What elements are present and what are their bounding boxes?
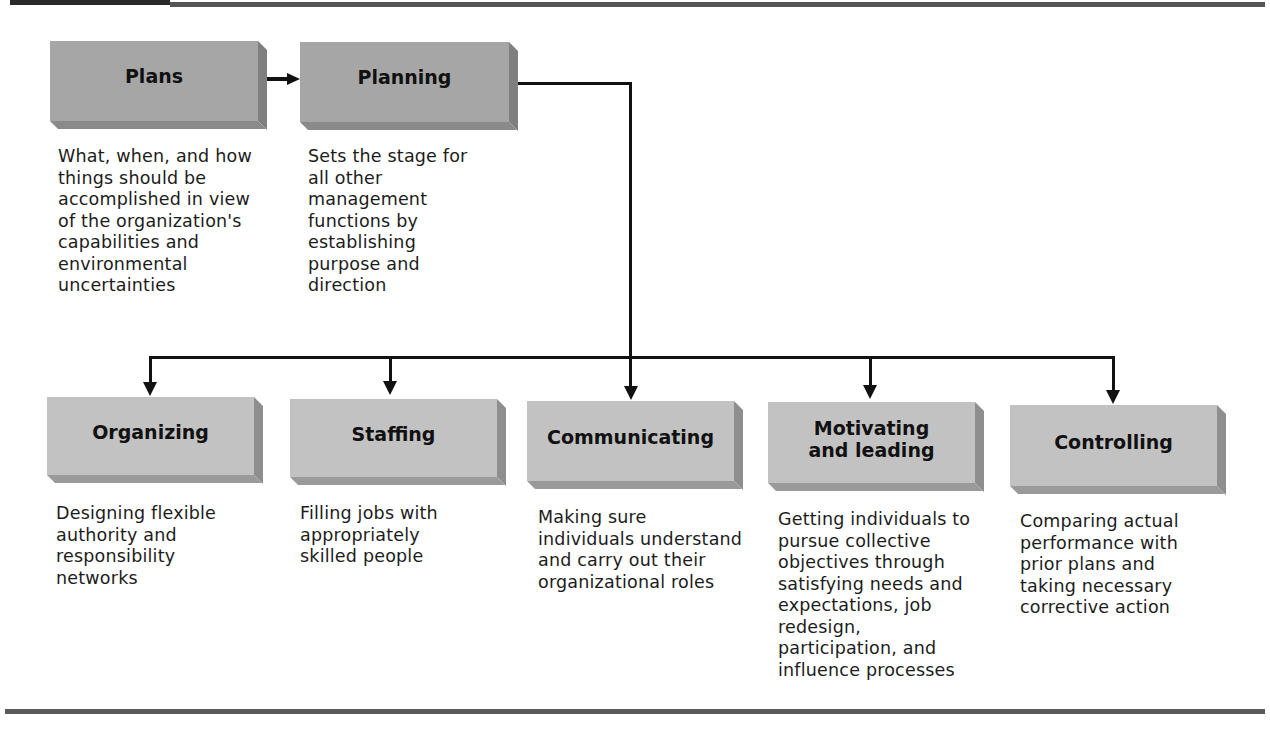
drop-organizing-line [149,356,152,384]
distribution-horizontal-line [149,356,1115,359]
plans-to-planning-arrow [287,73,300,85]
drop-motivating-line [869,356,872,386]
box-side [258,41,267,130]
organizing-box: Organizing [47,397,263,483]
arrow-to-motivating [863,385,877,399]
box-side [509,42,518,131]
box-base [290,477,505,485]
box-side [734,401,743,490]
motivating-leading-box: Motivating and leading [768,402,984,491]
controlling-label: Controlling [1010,405,1217,486]
organizing-description: Designing flexible authority and respons… [56,503,241,589]
communicating-description: Making sure individuals understand and c… [538,507,743,593]
organizing-label: Organizing [47,397,254,475]
arrow-to-communicating [624,386,638,400]
box-side [497,399,506,486]
motivating-leading-label: Motivating and leading [768,402,975,483]
staffing-description: Filling jobs with appropriately skilled … [300,503,465,568]
planning-out-line [508,82,631,85]
trunk-vertical-line [629,82,632,387]
controlling-box: Controlling [1010,405,1226,494]
communicating-label: Communicating [527,401,734,481]
controlling-description: Comparing actual performance with prior … [1020,511,1210,619]
box-base [1010,486,1225,494]
plans-description: What, when, and how things should be acc… [58,146,258,297]
planning-description: Sets the stage for all other management … [308,146,478,297]
title-rule [170,2,1265,7]
planning-box: Planning [300,42,518,130]
box-base [47,475,262,483]
staffing-label: Staffing [290,399,497,477]
box-base [527,481,742,489]
drop-controlling-line [1112,356,1115,391]
box-side [1217,405,1226,495]
box-base [768,483,983,491]
box-base [300,122,517,130]
arrow-to-controlling [1106,390,1120,404]
communicating-box: Communicating [527,401,743,489]
box-base [50,121,266,129]
drop-staffing-line [389,356,392,382]
arrow-to-organizing [143,382,157,396]
staffing-box: Staffing [290,399,506,485]
planning-label: Planning [300,42,509,122]
plans-label: Plans [50,41,258,121]
motivating-leading-description: Getting individuals to pursue collective… [778,509,983,681]
bottom-rule [5,709,1265,714]
plans-box: Plans [50,41,267,129]
box-side [254,397,263,484]
box-side [975,402,984,492]
title-bar-block [10,0,170,5]
arrow-to-staffing [383,381,397,395]
